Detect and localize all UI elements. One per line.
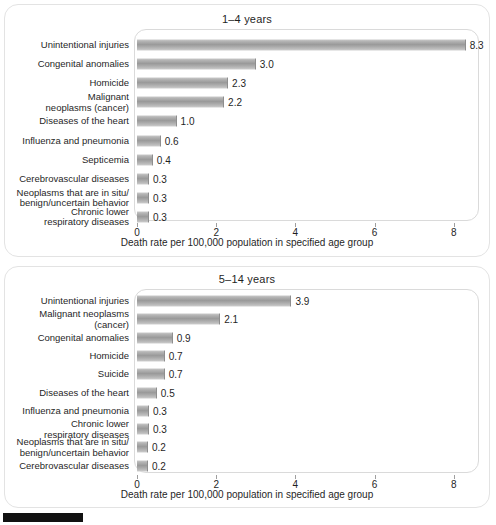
bar-row: Suicide0.7	[5, 366, 489, 382]
bar-value-label: 0.3	[153, 192, 167, 203]
bar-value-label: 0.9	[177, 332, 191, 343]
bar-value-label: 0.3	[153, 211, 167, 222]
x-axis-tick-label: 2	[213, 479, 219, 490]
bar	[137, 97, 224, 108]
bar	[137, 296, 291, 307]
bar-row-label: Unintentional injuries	[7, 40, 129, 51]
bar	[137, 59, 256, 70]
bar-rows-5-14-years: Unintentional injuries3.9Malignant neopl…	[5, 267, 489, 507]
bar-value-label: 0.2	[152, 460, 166, 471]
bar-row: Diseases of the heart0.5	[5, 385, 489, 401]
x-axis-title-5-14-years: Death rate per 100,000 population in spe…	[5, 489, 489, 500]
chart-panel-1-4-years: 1–4 years Unintentional injuries8.3Conge…	[4, 4, 490, 257]
bar-value-label: 0.7	[169, 369, 183, 380]
bar-row-label: Cerebrovascular diseases	[7, 460, 129, 471]
bar-row: Cerebrovascular diseases0.3	[5, 171, 489, 187]
bar	[137, 405, 149, 416]
bar-with-value: 0.5	[137, 387, 175, 398]
bar-row-label: Homicide	[7, 78, 129, 89]
x-axis-tick-label: 4	[293, 479, 299, 490]
bar-row: Septicemia0.4	[5, 152, 489, 168]
bar-value-label: 2.3	[232, 78, 246, 89]
bar-row: Malignant neoplasms (cancer)2.1	[5, 311, 489, 327]
bar-with-value: 0.4	[137, 154, 171, 165]
bar-row: Homicide0.7	[5, 348, 489, 364]
bar-row-label: Unintentional injuries	[7, 296, 129, 307]
bar-value-label: 0.2	[152, 442, 166, 453]
bar-row: Malignant neoplasms (cancer)2.2	[5, 94, 489, 110]
bar-row-label: Diseases of the heart	[7, 387, 129, 398]
x-axis-tick-label: 8	[451, 227, 457, 238]
bar-with-value: 3.9	[137, 296, 309, 307]
bar	[137, 387, 157, 398]
bar-row-label: Neoplasms that are in situ/ benign/uncer…	[7, 437, 129, 458]
bar-row: Chronic lower respiratory diseases0.3	[5, 421, 489, 437]
bar	[137, 424, 149, 435]
bar-row: Congenital anomalies0.9	[5, 330, 489, 346]
bar	[137, 314, 220, 325]
bar	[137, 442, 148, 453]
bar-row-label: Congenital anomalies	[7, 59, 129, 70]
bar-value-label: 3.0	[260, 59, 274, 70]
bar-value-label: 8.3	[470, 40, 484, 51]
bar	[137, 369, 165, 380]
bar-with-value: 0.2	[137, 442, 166, 453]
bar-with-value: 2.1	[137, 314, 238, 325]
bar-with-value: 0.3	[137, 211, 167, 222]
bar-row-label: Cerebrovascular diseases	[7, 173, 129, 184]
bar-with-value: 0.2	[137, 460, 166, 471]
bar	[137, 173, 149, 184]
bar-row: Diseases of the heart1.0	[5, 113, 489, 129]
bar-row: Cerebrovascular diseases0.2	[5, 458, 489, 474]
bar-row: Influenza and pneumonia0.3	[5, 403, 489, 419]
bar	[137, 460, 148, 471]
bar-row-label: Influenza and pneumonia	[7, 406, 129, 417]
bar-value-label: 0.3	[153, 173, 167, 184]
bar	[137, 116, 177, 127]
bar-with-value: 1.0	[137, 116, 195, 127]
bar	[137, 192, 149, 203]
bar-value-label: 0.3	[153, 405, 167, 416]
bar-row: Neoplasms that are in situ/ benign/uncer…	[5, 439, 489, 455]
bar-row-label: Suicide	[7, 369, 129, 380]
bar-value-label: 2.2	[228, 97, 242, 108]
bar-with-value: 0.7	[137, 369, 183, 380]
bar-value-label: 2.1	[224, 314, 238, 325]
chart-panel-5-14-years: 5–14 years Unintentional injuries3.9Mali…	[4, 266, 490, 508]
bar-value-label: 1.0	[181, 116, 195, 127]
x-axis-tick-label: 2	[213, 227, 219, 238]
bar-rows-1-4-years: Unintentional injuries8.3Congenital anom…	[5, 5, 489, 256]
bar-with-value: 8.3	[137, 40, 484, 51]
x-axis-tick-label: 6	[372, 227, 378, 238]
bar-with-value: 2.2	[137, 97, 242, 108]
bar	[137, 135, 161, 146]
x-axis-tick-label: 8	[451, 479, 457, 490]
x-axis-title-1-4-years: Death rate per 100,000 population in spe…	[5, 237, 489, 248]
bar-row-label: Malignant neoplasms (cancer)	[7, 309, 129, 330]
bar-with-value: 3.0	[137, 59, 274, 70]
bar-with-value: 0.3	[137, 405, 167, 416]
bar-row: Unintentional injuries3.9	[5, 293, 489, 309]
bar-with-value: 2.3	[137, 78, 246, 89]
bar-value-label: 3.9	[295, 296, 309, 307]
page-corner-marker	[3, 513, 83, 522]
bar-with-value: 0.3	[137, 424, 167, 435]
x-axis-tick-label: 4	[293, 227, 299, 238]
x-axis-tick-label: 0	[134, 479, 140, 490]
bar-row: Neoplasms that are in situ/ benign/uncer…	[5, 190, 489, 206]
bar-row-label: Diseases of the heart	[7, 116, 129, 127]
bar	[137, 211, 149, 222]
bar-row-label: Septicemia	[7, 154, 129, 165]
bar-value-label: 0.6	[165, 135, 179, 146]
bar-row-label: Congenital anomalies	[7, 332, 129, 343]
bar-with-value: 0.7	[137, 350, 183, 361]
bar-row: Unintentional injuries8.3	[5, 37, 489, 53]
bar-row-label: Homicide	[7, 351, 129, 362]
bar	[137, 40, 466, 51]
bar-with-value: 0.6	[137, 135, 179, 146]
bar	[137, 154, 153, 165]
bar-row: Homicide2.3	[5, 75, 489, 91]
bar-value-label: 0.7	[169, 350, 183, 361]
bar-row: Congenital anomalies3.0	[5, 56, 489, 72]
bar-row-label: Influenza and pneumonia	[7, 135, 129, 146]
